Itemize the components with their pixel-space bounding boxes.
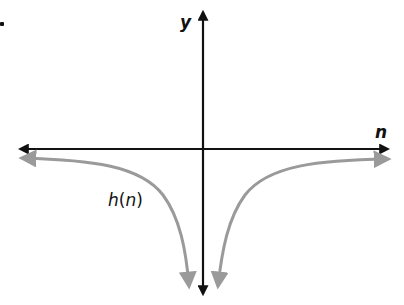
graph-canvas [0,0,404,305]
curve-label: h(n) [108,190,143,210]
curve-label-arg: n [125,190,136,210]
curve-right-branch [218,159,388,286]
x-axis-label: n [375,122,387,142]
graph-figure: y n h(n) [0,0,404,305]
y-axis-label: y [180,12,191,32]
curve-left-branch [22,158,189,286]
curve-label-func: h [108,190,119,210]
